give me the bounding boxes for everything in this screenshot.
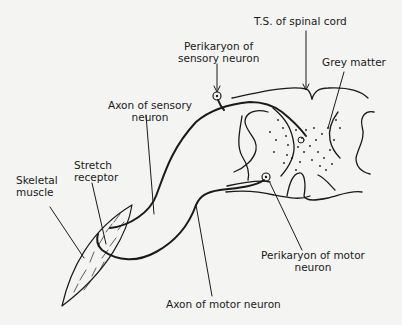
label-text: receptor bbox=[74, 171, 118, 183]
label-perikaryon-sensory: Perikaryon of sensory neuron bbox=[178, 40, 259, 64]
reflex-arc-diagram: T.S. of spinal cord Perikaryon of sensor… bbox=[0, 0, 402, 325]
label-axon-sensory: Axon of sensory neuron bbox=[108, 99, 192, 123]
label-text: Perikaryon of motor bbox=[261, 249, 365, 261]
label-perikaryon-motor: Perikaryon of motor neuron bbox=[261, 249, 365, 273]
label-text: neuron bbox=[261, 261, 365, 273]
label-text: Stretch bbox=[74, 159, 118, 171]
label-text: T.S. of spinal cord bbox=[254, 15, 347, 27]
label-stretch-receptor: Stretch receptor bbox=[74, 159, 118, 183]
central-canal bbox=[298, 137, 304, 143]
label-text: Axon of motor neuron bbox=[166, 298, 281, 310]
label-text: Skeletal bbox=[16, 174, 58, 186]
label-text: Axon of sensory bbox=[108, 99, 192, 111]
label-text: neuron bbox=[108, 111, 192, 123]
spinal-cord-outline bbox=[226, 88, 374, 200]
label-text: muscle bbox=[16, 186, 58, 198]
label-ts-spinal-cord: T.S. of spinal cord bbox=[254, 15, 347, 27]
label-grey-matter: Grey matter bbox=[322, 56, 386, 68]
label-text: sensory neuron bbox=[178, 52, 259, 64]
skeletal-muscle bbox=[62, 205, 132, 306]
motor-neuron bbox=[97, 180, 264, 259]
label-text: Grey matter bbox=[322, 56, 386, 68]
label-axon-motor: Axon of motor neuron bbox=[166, 298, 281, 310]
label-skeletal-muscle: Skeletal muscle bbox=[16, 174, 58, 198]
label-text: Perikaryon of bbox=[178, 40, 259, 52]
